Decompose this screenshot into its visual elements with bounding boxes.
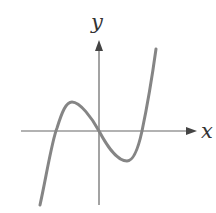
graph-canvas	[0, 0, 216, 213]
x-axis-label: x	[201, 121, 213, 142]
x-axis-arrow-icon	[186, 127, 197, 135]
function-graph: y x	[0, 0, 216, 213]
y-axis-label: y	[91, 12, 103, 33]
cubic-curve	[40, 49, 156, 205]
y-axis-arrow-icon	[95, 40, 103, 51]
